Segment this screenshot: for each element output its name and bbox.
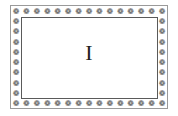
flower-icon: ❁	[22, 100, 30, 108]
flower-icon: ❁	[33, 100, 41, 108]
flower-icon: ❁	[54, 8, 62, 16]
flower-icon: ❁	[158, 8, 166, 16]
flower-icon: ❁	[158, 90, 166, 98]
flower-icon: ❁	[43, 100, 51, 108]
flower-icon: ❁	[158, 69, 166, 77]
flower-icon: ❁	[95, 100, 103, 108]
flower-icon: ❁	[158, 28, 166, 36]
center-letter: I	[80, 41, 98, 65]
flower-icon: ❁	[148, 100, 156, 108]
flower-icon: ❁	[12, 28, 20, 36]
flower-icon: ❁	[116, 100, 124, 108]
flower-icon: ❁	[12, 80, 20, 88]
flower-icon: ❁	[106, 8, 114, 16]
flower-icon: ❁	[106, 100, 114, 108]
flower-icon: ❁	[12, 8, 20, 16]
flower-icon: ❁	[64, 100, 72, 108]
flower-icon: ❁	[12, 59, 20, 67]
flower-icon: ❁	[137, 8, 145, 16]
flower-icon: ❁	[12, 69, 20, 77]
flower-icon: ❁	[158, 18, 166, 26]
flower-icon: ❁	[158, 80, 166, 88]
flower-icon: ❁	[116, 8, 124, 16]
flower-icon: ❁	[127, 100, 135, 108]
flower-icon: ❁	[127, 8, 135, 16]
flower-icon: ❁	[75, 100, 83, 108]
flower-icon: ❁	[137, 100, 145, 108]
flower-icon: ❁	[54, 100, 62, 108]
flower-icon: ❁	[43, 8, 51, 16]
flower-icon: ❁	[12, 18, 20, 26]
flower-icon: ❁	[85, 8, 93, 16]
flower-icon: ❁	[22, 8, 30, 16]
flower-icon: ❁	[64, 8, 72, 16]
flower-icon: ❁	[12, 90, 20, 98]
flower-icon: ❁	[158, 59, 166, 67]
flower-icon: ❁	[12, 49, 20, 57]
flower-icon: ❁	[75, 8, 83, 16]
flower-icon: ❁	[158, 100, 166, 108]
flower-icon: ❁	[95, 8, 103, 16]
flower-icon: ❁	[158, 49, 166, 57]
flower-icon: ❁	[158, 39, 166, 47]
flower-icon: ❁	[12, 100, 20, 108]
flower-icon: ❁	[12, 39, 20, 47]
flower-icon: ❁	[148, 8, 156, 16]
flower-icon: ❁	[33, 8, 41, 16]
flower-icon: ❁	[85, 100, 93, 108]
